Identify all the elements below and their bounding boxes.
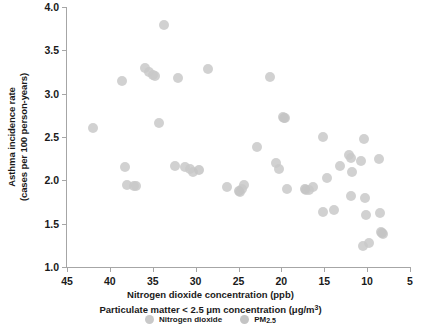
y-axis-tick: [62, 180, 67, 181]
data-point: [274, 164, 284, 174]
data-point: [318, 132, 328, 142]
x-axis-tick: [110, 267, 111, 272]
x-axis-tick-label: 15: [318, 275, 330, 287]
y-axis-tick-label: 3.5: [44, 44, 59, 56]
data-point: [194, 165, 204, 175]
x-axis-tick-label: 10: [361, 275, 373, 287]
data-point: [335, 161, 345, 171]
y-axis-tick: [62, 224, 67, 225]
y-axis-tick-label: 2.5: [44, 131, 59, 143]
data-point: [222, 182, 232, 192]
x-axis-tick-label: 20: [276, 275, 288, 287]
data-point: [88, 123, 98, 133]
x-axis-tick-label: 30: [190, 275, 202, 287]
x-axis-tick-label: 25: [233, 275, 245, 287]
data-point: [282, 184, 292, 194]
x-axis-tick: [67, 267, 68, 272]
legend-marker-icon: [240, 315, 249, 324]
legend-item-pm[interactable]: PM2.5: [240, 315, 276, 324]
data-point: [346, 191, 356, 201]
data-point: [364, 238, 374, 248]
data-point: [252, 142, 262, 152]
data-point: [374, 154, 384, 164]
x-axis-title-pm-post: ): [318, 304, 321, 315]
y-axis-tick-label: 3.0: [44, 88, 59, 100]
data-point: [356, 156, 366, 166]
legend-label-subscript: 2.5: [266, 317, 276, 324]
y-axis-tick: [62, 50, 67, 51]
data-point: [300, 184, 310, 194]
chart-legend: Nitrogen dioxidePM2.5: [0, 315, 421, 324]
x-axis-title-pm-pre: Particulate matter < 2.5: [99, 304, 206, 315]
data-point: [154, 118, 164, 128]
data-point: [131, 181, 141, 191]
data-point: [375, 208, 385, 218]
legend-label: Nitrogen dioxide: [159, 315, 222, 324]
y-axis-tick: [62, 94, 67, 95]
x-axis-titles: Nitrogen dioxide concentration (ppb) Par…: [0, 288, 421, 316]
data-point: [361, 210, 371, 220]
y-axis-title: Asthma incidence rate (cases per 100 per…: [0, 6, 34, 268]
x-axis-title-pm-unit: μg/m: [292, 304, 315, 315]
data-point: [150, 71, 160, 81]
x-axis-tick-label: 5: [407, 275, 413, 287]
x-axis-tick: [281, 267, 282, 272]
data-point: [322, 173, 332, 183]
data-point: [360, 193, 370, 203]
legend-item-no2[interactable]: Nitrogen dioxide: [145, 315, 222, 324]
y-axis-tick: [62, 7, 67, 8]
data-point: [203, 64, 213, 74]
x-axis-tick: [196, 267, 197, 272]
x-axis-tick: [410, 267, 411, 272]
x-axis-title-pm-mu: μm: [206, 304, 220, 315]
x-axis-tick-label: 45: [61, 275, 73, 287]
legend-label: PM2.5: [254, 315, 276, 324]
plot-area: 1.01.52.02.53.03.54.045403530252015105: [66, 7, 410, 268]
data-point: [318, 207, 328, 217]
data-point: [346, 153, 356, 163]
x-axis-title-no2: Nitrogen dioxide concentration (ppb): [0, 288, 421, 301]
data-point: [359, 134, 369, 144]
y-axis-title-line1: Asthma incidence rate: [6, 87, 17, 186]
data-point: [329, 205, 339, 215]
x-axis-tick-label: 40: [104, 275, 116, 287]
data-point: [159, 20, 169, 30]
data-point: [234, 186, 244, 196]
x-axis-title-pm: Particulate matter < 2.5 μm concentratio…: [0, 301, 421, 316]
data-point: [279, 113, 289, 123]
y-axis-tick-label: 2.0: [44, 174, 59, 186]
x-axis-tick: [153, 267, 154, 272]
data-point: [265, 72, 275, 82]
x-axis-title-pm-mid: concentration (: [221, 304, 292, 315]
x-axis-tick: [367, 267, 368, 272]
x-axis-tick: [239, 267, 240, 272]
data-point: [170, 161, 180, 171]
x-axis-tick: [324, 267, 325, 272]
y-axis-tick-label: 1.0: [44, 261, 59, 273]
data-point: [377, 228, 387, 238]
y-axis-tick-label: 1.5: [44, 218, 59, 230]
data-point: [347, 167, 357, 177]
y-axis-tick: [62, 137, 67, 138]
data-point: [120, 162, 130, 172]
scatter-chart: Asthma incidence rate (cases per 100 per…: [0, 0, 421, 332]
data-point: [117, 76, 127, 86]
y-axis-tick-label: 4.0: [44, 1, 59, 13]
legend-marker-icon: [145, 315, 154, 324]
y-axis-title-line2: (cases per 100 person-years): [18, 73, 29, 201]
x-axis-tick-label: 35: [147, 275, 159, 287]
data-point: [173, 73, 183, 83]
